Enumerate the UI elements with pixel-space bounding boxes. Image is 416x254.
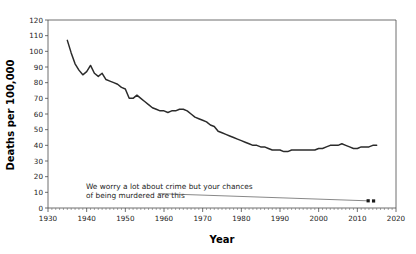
y-tick-label: 50 — [34, 125, 44, 134]
y-tick-label: 110 — [29, 31, 43, 40]
y-tick-label: 10 — [34, 188, 44, 197]
y-tick-label: 100 — [29, 47, 43, 56]
x-tick-label: 2020 — [387, 214, 406, 223]
plot-frame — [48, 20, 396, 208]
x-tick-label: 1930 — [39, 214, 58, 223]
line-chart: 0102030405060708090100110120 19301940195… — [0, 0, 416, 254]
y-tick-label: 90 — [34, 63, 44, 72]
x-tick-label: 1980 — [232, 214, 251, 223]
y-axis-title: Deaths per 100,000 — [5, 59, 16, 170]
data-series-group — [67, 40, 376, 151]
x-tick-label: 1940 — [78, 214, 97, 223]
annotation-marker-dot — [372, 199, 375, 202]
y-axis-ticks — [45, 20, 48, 208]
y-tick-label: 70 — [34, 94, 44, 103]
y-tick-label: 20 — [34, 172, 44, 181]
data-line — [67, 40, 376, 151]
y-tick-label: 0 — [38, 204, 43, 213]
x-tick-label: 2010 — [348, 214, 367, 223]
chart-container: 0102030405060708090100110120 19301940195… — [0, 0, 416, 254]
x-tick-label: 1970 — [194, 214, 213, 223]
x-tick-label: 1950 — [116, 214, 135, 223]
y-tick-label: 30 — [34, 157, 44, 166]
x-tick-label: 1990 — [271, 214, 290, 223]
annotation-line-1: We worry a lot about crime but your chan… — [86, 182, 253, 191]
annotation-leader-line — [158, 194, 367, 201]
annotation-markers — [367, 199, 376, 202]
x-tick-label: 1960 — [155, 214, 174, 223]
y-axis-tick-labels: 0102030405060708090100110120 — [29, 16, 43, 213]
annotation-line-2: of being murdered are this — [86, 191, 185, 200]
y-tick-label: 120 — [29, 16, 43, 25]
annotation-group: We worry a lot about crime but your chan… — [86, 182, 375, 203]
x-axis-title: Year — [209, 234, 235, 245]
x-tick-label: 2000 — [310, 214, 329, 223]
y-tick-label: 40 — [34, 141, 44, 150]
annotation-marker-dot — [367, 199, 370, 202]
y-tick-label: 60 — [34, 110, 44, 119]
y-tick-label: 80 — [34, 78, 44, 87]
x-axis-tick-labels: 1930194019501960197019801990200020102020 — [39, 214, 406, 223]
